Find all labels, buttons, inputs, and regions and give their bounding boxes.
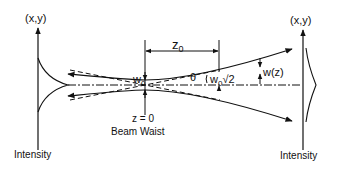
w0-root2-label: w0√2 — [209, 73, 235, 88]
gaussian-beam-diagram: (x,y) Intensity (x,y) Intensity z0 w0 θ … — [0, 0, 342, 172]
left-intensity-axis — [38, 28, 68, 150]
wz-label: w(z) — [262, 66, 284, 78]
theta-label: θ — [190, 71, 196, 83]
right-intensity-axis — [303, 30, 316, 150]
beam-waist-label: Beam Waist — [111, 126, 165, 137]
z-zero-label: z = 0 — [132, 113, 154, 124]
left-intensity-label: Intensity — [14, 149, 51, 160]
left-axis-label: (x,y) — [25, 12, 46, 24]
beam-lower-envelope — [68, 90, 292, 121]
right-axis-label: (x,y) — [290, 14, 311, 26]
theta-arc — [206, 75, 207, 83]
z0-label: z0 — [172, 37, 184, 54]
left-gaussian-profile — [38, 58, 68, 112]
right-gaussian-profile — [306, 48, 316, 122]
w0-label: w0 — [132, 73, 146, 88]
right-intensity-label: Intensity — [280, 150, 317, 161]
